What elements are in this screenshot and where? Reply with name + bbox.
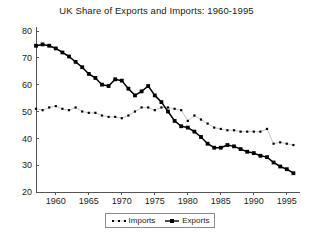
data-point-imports [246, 131, 248, 133]
data-point-imports [286, 143, 288, 145]
data-point-imports [167, 106, 169, 108]
data-point-exports [232, 144, 236, 148]
data-point-exports [239, 147, 243, 151]
data-point-imports [114, 116, 116, 118]
data-point-imports [81, 110, 83, 112]
data-point-exports [80, 65, 84, 69]
data-point-exports [265, 155, 269, 159]
data-point-exports [74, 60, 78, 64]
data-point-imports [127, 114, 129, 116]
data-point-imports [61, 108, 63, 110]
data-point-exports [140, 89, 144, 93]
data-point-exports [186, 126, 190, 130]
data-point-imports [94, 112, 96, 114]
legend-item-imports: Imports [111, 216, 156, 225]
data-point-exports [206, 142, 210, 146]
imports-marker-icon [111, 217, 127, 225]
x-tick-label: 1965 [79, 196, 99, 206]
data-point-imports [101, 114, 103, 116]
y-tick-label: 20 [22, 187, 32, 197]
x-tick-label: 1975 [145, 196, 165, 206]
x-axis-ticks: 19601965197019751980198519901995 [46, 192, 297, 206]
data-point-imports [160, 106, 162, 108]
data-point-imports [134, 110, 136, 112]
data-point-imports [42, 109, 44, 111]
exports-marker-icon [164, 217, 180, 225]
y-tick-label: 80 [22, 26, 32, 36]
data-point-imports [193, 114, 195, 116]
data-point-exports [259, 154, 263, 158]
data-point-exports [41, 43, 45, 47]
legend-label-imports: Imports [129, 216, 156, 225]
data-point-imports [266, 128, 268, 130]
data-point-imports [75, 106, 77, 108]
data-point-exports [252, 151, 256, 155]
data-point-imports [147, 106, 149, 108]
data-point-imports [48, 106, 50, 108]
data-point-imports [68, 109, 70, 111]
data-point-imports [292, 144, 294, 146]
data-point-exports [278, 165, 282, 169]
data-point-imports [273, 143, 275, 145]
chart-legend: Imports Exports [105, 213, 215, 228]
data-point-exports [61, 51, 65, 55]
data-point-imports [259, 131, 261, 133]
data-point-exports [272, 161, 276, 165]
data-point-exports [199, 135, 203, 139]
plot-area: 20304050607080 1960196519701975198019851… [0, 0, 313, 241]
data-point-imports [180, 109, 182, 111]
data-point-exports [120, 79, 124, 83]
data-point-imports [226, 129, 228, 131]
x-tick-label: 1995 [277, 196, 297, 206]
data-point-exports [34, 44, 38, 48]
data-point-exports [47, 44, 51, 48]
data-point-imports [213, 127, 215, 129]
y-tick-label: 70 [22, 53, 32, 63]
data-point-imports [121, 117, 123, 119]
data-point-exports [212, 146, 216, 150]
data-point-imports [200, 118, 202, 120]
data-series [34, 43, 295, 176]
data-point-exports [179, 124, 183, 128]
x-tick-label: 1990 [244, 196, 264, 206]
data-point-exports [292, 171, 296, 175]
data-point-exports [146, 84, 150, 88]
legend-label-exports: Exports [182, 216, 209, 225]
data-point-exports [113, 77, 117, 81]
y-tick-label: 40 [22, 134, 32, 144]
data-point-exports [54, 47, 58, 51]
data-point-exports [160, 100, 164, 104]
data-point-exports [94, 76, 98, 80]
x-tick-label: 1960 [46, 196, 66, 206]
y-tick-label: 30 [22, 160, 32, 170]
x-tick-label: 1970 [112, 196, 132, 206]
data-point-exports [87, 72, 91, 76]
data-point-exports [67, 55, 71, 59]
data-point-exports [107, 84, 111, 88]
data-point-imports [174, 108, 176, 110]
series-line-imports [36, 106, 293, 145]
y-tick-label: 50 [22, 107, 32, 117]
data-point-exports [219, 146, 223, 150]
y-tick-label: 60 [22, 80, 32, 90]
data-point-imports [35, 108, 37, 110]
data-point-imports [233, 129, 235, 131]
data-point-exports [285, 167, 289, 171]
data-point-exports [153, 94, 157, 98]
data-point-exports [133, 94, 137, 98]
data-point-imports [154, 109, 156, 111]
chart-container: UK Share of Exports and Imports: 1960-19… [0, 0, 313, 241]
data-point-exports [100, 83, 104, 87]
x-tick-label: 1985 [211, 196, 231, 206]
data-point-exports [166, 110, 170, 114]
data-point-imports [253, 131, 255, 133]
data-point-imports [88, 112, 90, 114]
data-point-imports [187, 120, 189, 122]
x-tick-label: 1980 [178, 196, 198, 206]
data-point-exports [127, 87, 131, 91]
data-point-imports [55, 105, 57, 107]
data-point-imports [279, 141, 281, 143]
data-point-imports [220, 128, 222, 130]
data-point-exports [226, 143, 230, 147]
data-point-imports [108, 116, 110, 118]
